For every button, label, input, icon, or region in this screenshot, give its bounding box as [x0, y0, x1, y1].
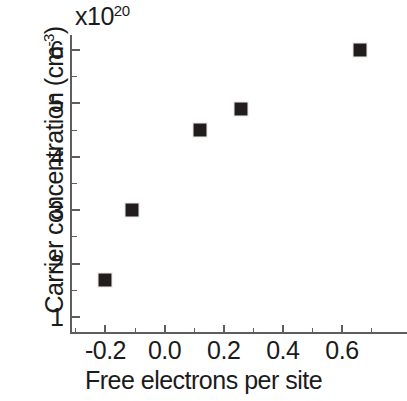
y-tick-label: 4	[50, 144, 64, 169]
x-tick-minor	[194, 328, 195, 334]
x-tick-minor	[253, 328, 254, 334]
x-tick-major	[223, 325, 225, 334]
y-tick-minor	[72, 290, 77, 291]
y-tick-major	[72, 156, 80, 158]
data-point-marker	[194, 124, 207, 137]
y-tick-label: 3	[50, 198, 64, 223]
data-point-marker	[353, 43, 366, 56]
x-tick-label: -0.2	[85, 338, 126, 363]
y-tick-major	[72, 49, 80, 51]
x-tick-label: 0.2	[207, 338, 240, 363]
x-axis-line	[70, 332, 407, 334]
x-tick-major	[341, 325, 343, 334]
y-tick-minor	[72, 76, 77, 77]
multiplier-exponent: 20	[114, 2, 130, 19]
x-tick-major	[282, 325, 284, 334]
x-tick-major	[104, 325, 106, 334]
y-axis-title-close: )	[41, 27, 69, 35]
data-point-marker	[126, 204, 139, 217]
x-tick-major	[164, 325, 166, 334]
chart-figure: x1020 Carrier concentration (cm-3) Free …	[0, 0, 407, 401]
y-axis-multiplier-label: x1020	[75, 2, 130, 31]
multiplier-base: x10	[75, 2, 114, 30]
y-tick-minor	[72, 183, 77, 184]
data-point-marker	[99, 273, 112, 286]
y-tick-label: 1	[50, 305, 64, 330]
x-axis-title: Free electrons per site	[0, 366, 407, 395]
data-point-marker	[235, 102, 248, 115]
x-tick-minor	[312, 328, 313, 334]
y-tick-major	[72, 316, 80, 318]
x-tick-label: 0.4	[266, 338, 299, 363]
x-tick-minor	[75, 328, 76, 334]
y-tick-major	[72, 263, 80, 265]
y-tick-major	[72, 102, 80, 104]
plot-area: 123456 -0.20.00.20.40.6	[70, 35, 407, 334]
y-tick-label: 2	[50, 251, 64, 276]
y-tick-label: 5	[50, 91, 64, 116]
y-tick-label: 6	[50, 37, 64, 62]
x-tick-label: 0.6	[325, 338, 358, 363]
x-tick-minor	[371, 328, 372, 334]
x-tick-label: 0.0	[148, 338, 181, 363]
x-tick-minor	[135, 328, 136, 334]
y-tick-minor	[72, 130, 77, 131]
y-tick-minor	[72, 236, 77, 237]
y-tick-major	[72, 209, 80, 211]
